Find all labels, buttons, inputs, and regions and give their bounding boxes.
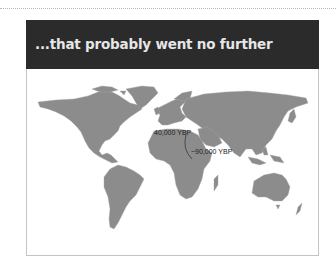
europe	[156, 97, 186, 125]
world-map-svg	[26, 69, 319, 256]
north-america	[38, 91, 142, 163]
world-map: 40,000 YBP ~90,000 YBP	[26, 69, 319, 256]
slide-title: ...that probably went no further	[35, 36, 272, 52]
australia	[252, 173, 290, 201]
annotation-40000-ybp: 40,000 YBP	[154, 129, 191, 136]
dotted-separator	[0, 8, 336, 9]
south-america	[104, 165, 144, 229]
annotation-90000-ybp: ~90,000 YBP	[191, 148, 232, 155]
slide-header: ...that probably went no further	[26, 20, 319, 69]
